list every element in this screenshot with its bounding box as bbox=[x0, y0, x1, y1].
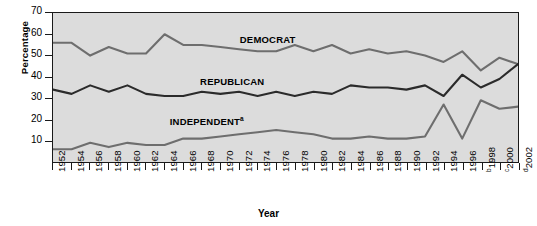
y-tick-label: 10 bbox=[31, 134, 42, 145]
x-tick-mark-1964 bbox=[164, 163, 165, 170]
series-label-independent: INDEPENDENTa bbox=[170, 116, 244, 127]
y-tick-label: 70 bbox=[31, 5, 42, 16]
x-tick-label-1990: 1990 bbox=[411, 150, 422, 172]
plot-area: DEMOCRATREPUBLICANINDEPENDENTa bbox=[52, 12, 519, 163]
x-tick-label-1974: 1974 bbox=[261, 150, 272, 172]
x-tick-mark-1982 bbox=[332, 163, 333, 170]
series-label-democrat: DEMOCRAT bbox=[240, 34, 296, 45]
x-tick-label-1984: 1984 bbox=[355, 150, 366, 172]
x-tick-mark-1968 bbox=[201, 163, 202, 170]
x-tick-label-1986: 1986 bbox=[374, 150, 385, 172]
x-tick-mark-1962 bbox=[145, 163, 146, 170]
x-tick-mark-1980 bbox=[314, 163, 315, 170]
series-line-independent bbox=[53, 100, 518, 149]
y-axis-title: Percentage bbox=[19, 0, 30, 103]
x-tick-mark-1960 bbox=[127, 163, 128, 170]
x-tick-label-1982: 1982 bbox=[336, 150, 347, 172]
x-tick-mark-1954 bbox=[71, 163, 72, 170]
series-line-republican bbox=[53, 64, 518, 96]
series-label-superscript: a bbox=[240, 115, 244, 122]
y-tick-mark bbox=[45, 77, 52, 78]
x-tick-label-1996: 1996 bbox=[467, 150, 478, 172]
x-tick-label-1980: 1980 bbox=[318, 150, 329, 172]
x-tick-label-1968: 1968 bbox=[205, 150, 216, 172]
x-tick-mark-1990 bbox=[407, 163, 408, 170]
x-tick-mark-2000 bbox=[500, 163, 501, 170]
y-tick-mark bbox=[45, 34, 52, 35]
x-tick-label-1972: 1972 bbox=[243, 150, 254, 172]
x-tick-label-1998: b1998 bbox=[486, 147, 497, 172]
x-tick-mark-1956 bbox=[89, 163, 90, 170]
x-tick-mark-1986 bbox=[370, 163, 371, 170]
x-tick-mark-1992 bbox=[426, 163, 427, 170]
x-tick-mark-1984 bbox=[351, 163, 352, 170]
x-tick-superscript: b bbox=[484, 168, 491, 172]
percentage-by-year-line-chart: Percentage 10203040506070 DEMOCRATREPUBL… bbox=[0, 0, 537, 226]
y-tick-label: 20 bbox=[31, 113, 42, 124]
x-tick-label-1966: 1966 bbox=[187, 150, 198, 172]
x-tick-mark-1998 bbox=[482, 163, 483, 170]
x-tick-label-1954: 1954 bbox=[75, 150, 86, 172]
x-tick-mark-1976 bbox=[276, 163, 277, 170]
y-tick-label: 50 bbox=[31, 48, 42, 59]
x-tick-label-1976: 1976 bbox=[280, 150, 291, 172]
y-tick-mark bbox=[45, 120, 52, 121]
x-tick-mark-1966 bbox=[183, 163, 184, 170]
y-tick-label: 40 bbox=[31, 70, 42, 81]
y-tick-label: 30 bbox=[31, 91, 42, 102]
x-tick-mark-1958 bbox=[108, 163, 109, 170]
x-tick-mark-1952 bbox=[52, 163, 53, 170]
x-tick-label-1956: 1956 bbox=[93, 150, 104, 172]
x-tick-mark-1996 bbox=[463, 163, 464, 170]
x-tick-label-1970: 1970 bbox=[224, 150, 235, 172]
x-tick-label-1992: 1992 bbox=[430, 150, 441, 172]
x-tick-label-1994: 1994 bbox=[448, 150, 459, 172]
y-tick-mark bbox=[45, 12, 52, 13]
x-tick-label-1988: 1988 bbox=[392, 150, 403, 172]
x-tick-mark-1978 bbox=[295, 163, 296, 170]
y-tick-mark bbox=[45, 98, 52, 99]
x-tick-label-2000: c2000 bbox=[504, 147, 515, 172]
x-tick-label-2002: d2002 bbox=[523, 147, 534, 172]
x-tick-label-1978: 1978 bbox=[299, 150, 310, 172]
y-tick-mark bbox=[45, 141, 52, 142]
x-tick-mark-1994 bbox=[444, 163, 445, 170]
y-tick-label: 60 bbox=[31, 27, 42, 38]
x-tick-label-1958: 1958 bbox=[112, 150, 123, 172]
x-tick-mark-2002 bbox=[519, 163, 520, 170]
x-tick-mark-1988 bbox=[388, 163, 389, 170]
x-tick-mark-1974 bbox=[257, 163, 258, 170]
x-axis-title: Year bbox=[0, 208, 537, 219]
x-tick-label-1962: 1962 bbox=[149, 150, 160, 172]
x-tick-mark-1970 bbox=[220, 163, 221, 170]
x-tick-label-1960: 1960 bbox=[131, 150, 142, 172]
x-tick-label-1964: 1964 bbox=[168, 150, 179, 172]
x-tick-mark-1972 bbox=[239, 163, 240, 170]
series-label-republican: REPUBLICAN bbox=[200, 76, 264, 87]
x-tick-superscript: d bbox=[522, 168, 529, 172]
y-tick-mark bbox=[45, 55, 52, 56]
x-tick-label-1952: 1952 bbox=[56, 150, 67, 172]
x-tick-superscript: c bbox=[503, 169, 510, 172]
